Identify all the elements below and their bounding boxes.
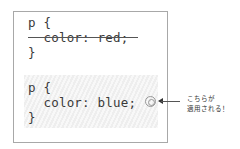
annotation-text: こちらが適用される！ [187,94,229,114]
strikethrough-line [28,37,138,38]
code-line: } [28,110,36,125]
code-line: p { [28,15,51,30]
code-line: color: blue; [28,95,136,110]
code-line: p { [28,80,51,95]
annotation-line-1: こちらが [187,94,229,104]
double-circle-icon [145,96,156,107]
annotation-line-2: 適用される！ [187,104,229,114]
css-rule-applied: p { color: blue; } [28,80,136,125]
arrow-line [161,101,180,102]
code-line: } [28,45,36,60]
